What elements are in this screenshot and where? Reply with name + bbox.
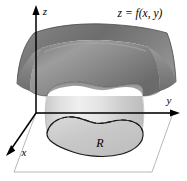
x-axis-label: x: [21, 146, 27, 158]
surface-over-region-figure: R z y x z = f(x, y): [0, 0, 187, 181]
figure-container: R z y x z = f(x, y): [0, 0, 187, 181]
z-axis-label: z: [42, 5, 48, 17]
region-label-R: R: [95, 136, 104, 150]
z-axis-arrowhead: [32, 5, 39, 15]
x-axis-arrowhead: [6, 145, 15, 156]
y-axis-arrowhead: [170, 109, 180, 116]
surface-equation-label: z = f(x, y): [117, 7, 163, 20]
y-axis-label: y: [166, 94, 172, 106]
